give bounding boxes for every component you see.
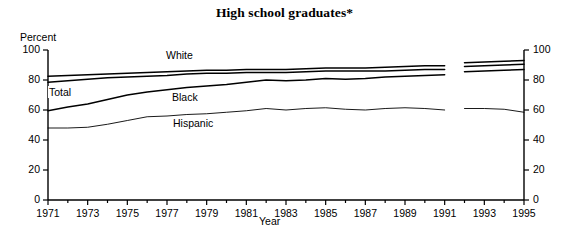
series-label-black: Black <box>171 91 199 103</box>
y-tick-label-left: 100 <box>0 43 40 55</box>
y-tick-label-left: 20 <box>0 163 40 175</box>
y-tick-label-right: 20 <box>533 163 569 175</box>
y-tick-label-left: 40 <box>0 133 40 145</box>
data-line-hispanic <box>465 109 525 113</box>
y-tick-label-left: 0 <box>0 193 40 205</box>
data-line-black <box>465 70 525 72</box>
y-tick-label-right: 0 <box>533 193 569 205</box>
series-label-white: White <box>165 49 194 61</box>
y-tick-label-right: 80 <box>533 73 569 85</box>
y-tick-label-right: 100 <box>533 43 569 55</box>
y-tick-label-right: 40 <box>533 133 569 145</box>
y-tick-label-right: 60 <box>533 103 569 115</box>
series-label-total: Total <box>48 86 72 98</box>
x-tick-label: 1995 <box>499 207 549 219</box>
data-line-total <box>48 70 445 83</box>
plot-area <box>0 0 569 236</box>
y-tick-label-left: 60 <box>0 103 40 115</box>
series-label-hispanic: Hispanic <box>172 117 214 129</box>
y-tick-label-left: 80 <box>0 73 40 85</box>
data-line-hispanic <box>48 108 445 128</box>
data-line-white <box>465 61 525 63</box>
chart-container: High school graduates* Percent Year 0020… <box>0 0 569 236</box>
data-line-total <box>465 64 525 66</box>
data-line-black <box>48 75 445 111</box>
